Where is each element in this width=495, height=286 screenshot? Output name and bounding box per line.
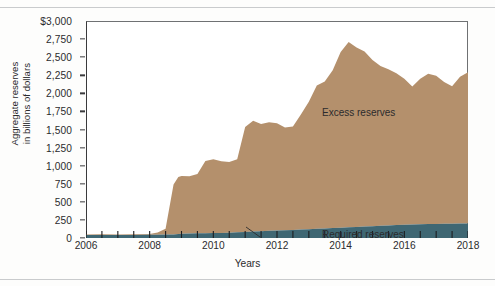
y-tick-label: 1,500 <box>46 124 72 135</box>
y-tick-mark <box>80 219 85 220</box>
y-tick-mark <box>80 165 85 166</box>
x-tick-label: 2006 <box>75 240 98 251</box>
page-rule-bottom <box>0 279 495 280</box>
y-tick-label: 500 <box>55 196 72 207</box>
y-tick-mark <box>80 38 85 39</box>
y-tick-label: 0 <box>66 233 72 244</box>
x-tick-label: 2014 <box>329 240 352 251</box>
y-tick-mark <box>80 201 85 202</box>
plot-area: Excess reserves Required reserves <box>86 21 468 238</box>
y-tick-mark <box>80 147 85 148</box>
page-rule-top <box>0 7 495 8</box>
required-reserves-annotation: Required reserves <box>322 229 404 240</box>
y-tick-mark <box>80 183 85 184</box>
y-tick-mark <box>80 111 85 112</box>
y-tick-label: 1,750 <box>46 106 72 117</box>
x-tick-label: 2010 <box>202 240 225 251</box>
y-tick-label: $3,000 <box>40 16 72 27</box>
y-tick-label: 2,750 <box>46 34 72 45</box>
chart-figure: 02505007501,0001,2501,5001,7502,0002,250… <box>0 0 495 286</box>
x-axis-ticks: 2006200820102012201420162018 <box>86 240 468 256</box>
y-tick-label: 1,000 <box>46 160 72 171</box>
excess-reserves-area <box>86 42 468 235</box>
y-tick-label: 250 <box>55 214 72 225</box>
y-tick-label: 2,250 <box>46 70 72 81</box>
y-tick-mark <box>80 57 85 58</box>
y-axis-title: Aggregate reserves in billions of dollar… <box>9 39 32 169</box>
y-tick-mark <box>80 75 85 76</box>
y-tick-mark <box>80 93 85 94</box>
x-tick-label: 2008 <box>138 240 161 251</box>
x-tick-label: 2012 <box>266 240 289 251</box>
y-tick-label: 2,000 <box>46 88 72 99</box>
x-tick-label: 2016 <box>393 240 416 251</box>
y-axis-title-line-2: in billions of dollars <box>21 39 33 169</box>
y-axis-title-line-1: Aggregate reserves <box>9 39 21 169</box>
y-tick-mark <box>80 237 85 238</box>
excess-reserves-annotation: Excess reserves <box>322 107 395 118</box>
y-tick-label: 1,250 <box>46 142 72 153</box>
y-tick-label: 2,500 <box>46 52 72 63</box>
area-chart-svg <box>86 21 468 238</box>
x-tick-label: 2018 <box>457 240 480 251</box>
y-tick-label: 750 <box>55 178 72 189</box>
y-tick-mark <box>80 129 85 130</box>
x-axis-title: Years <box>0 258 495 269</box>
